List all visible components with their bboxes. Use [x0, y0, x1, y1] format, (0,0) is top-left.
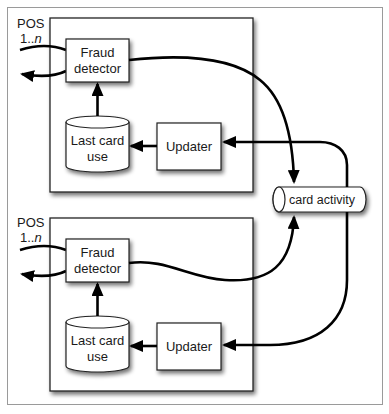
svg-text:Updater: Updater — [166, 339, 213, 354]
svg-text:Fraud: Fraud — [81, 45, 115, 60]
updater-node: Updater — [157, 123, 221, 170]
svg-text:Updater: Updater — [166, 139, 213, 154]
fraud-detector-node: Fraud detector — [66, 239, 129, 282]
card-activity-label: card activity — [289, 193, 356, 207]
fraud-detection-diagram: POS 1..n Fraud detector Last card use Up… — [0, 0, 389, 414]
last-card-use-label-2: use — [87, 149, 108, 164]
pos-range-label: 1..n — [20, 31, 42, 46]
last-card-use-label: Last card — [71, 333, 124, 348]
last-card-use-label: Last card — [71, 133, 124, 148]
instance-1: POS 1..n Fraud detector Last card use Up… — [17, 16, 253, 192]
svg-text:Fraud: Fraud — [81, 245, 115, 260]
fraud-detector-node: Fraud detector — [66, 39, 129, 82]
svg-text:detector: detector — [74, 61, 122, 76]
updater-node: Updater — [157, 323, 221, 370]
pos-label: POS — [17, 16, 45, 31]
last-card-use-label-2: use — [87, 349, 108, 364]
pos-label: POS — [17, 215, 45, 230]
svg-text:detector: detector — [74, 261, 122, 276]
instance-2: POS 1..n Fraud detector Last card use Up… — [17, 215, 253, 391]
pos-range-label: 1..n — [20, 230, 42, 245]
